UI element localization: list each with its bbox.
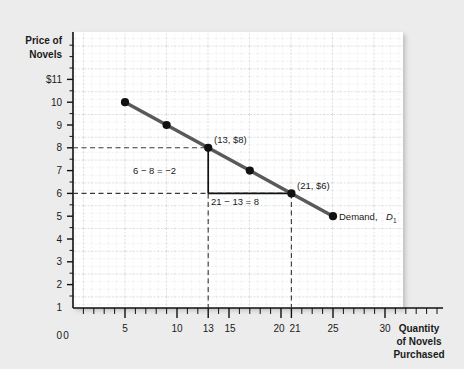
y-axis-title-line2: Novels [29, 49, 62, 60]
y-tick-label-11: $11 [46, 74, 62, 85]
x-tick-label-13: 13 [203, 323, 215, 334]
demand-curve-figure: $11 10 9 8 7 6 5 4 3 2 1 0 Price of Nove… [0, 0, 464, 369]
y-tick-label-10: 10 [51, 97, 63, 108]
data-point-9-9 [163, 121, 171, 129]
annotation-point-13-8: (13, $8) [214, 134, 247, 145]
annotation-run: 21 − 13 = 8 [211, 196, 259, 207]
x-tick-label-21: 21 [289, 323, 301, 334]
y-tick-label-3: 3 [56, 256, 62, 267]
y-tick-label-8: 8 [56, 142, 62, 153]
x-axis-title-line3: Purchased [393, 349, 444, 360]
major-grid [73, 32, 403, 308]
x-axis-title-line1: Quantity [399, 323, 440, 334]
demand-curve-label-symbol: D [386, 211, 393, 222]
annotation-rise: 6 − 8 = −2 [133, 165, 176, 176]
y-tick-label-9: 9 [56, 120, 62, 131]
data-point-21-6 [287, 189, 295, 197]
demand-curve-label-text: Demand, [339, 211, 378, 222]
origin-label: 0 [56, 330, 62, 341]
x-tick-label-0: 0 [63, 330, 69, 341]
x-tick-label-20: 20 [273, 323, 285, 334]
x-tick-label-25: 25 [327, 323, 339, 334]
x-tick-label-30: 30 [379, 323, 391, 334]
y-tick-label-4: 4 [56, 234, 62, 245]
x-tick-label-15: 15 [224, 323, 236, 334]
y-tick-label-6: 6 [56, 188, 62, 199]
demand-curve-label-subscript: 1 [393, 217, 397, 224]
data-point-5-10 [121, 98, 129, 106]
y-axis-title-line1: Price of [25, 35, 62, 46]
data-point-25-5 [329, 212, 337, 220]
annotation-point-21-6: (21, $6) [297, 180, 330, 191]
x-tick-label-10: 10 [171, 323, 183, 334]
y-tick-label-5: 5 [56, 211, 62, 222]
y-tick-label-1: 1 [56, 302, 62, 313]
data-point-17-7 [246, 167, 254, 175]
data-point-13-8 [204, 144, 212, 152]
y-tick-label-7: 7 [56, 165, 62, 176]
y-tick-label-2: 2 [56, 279, 62, 290]
x-axis-title-line2: of Novels [396, 336, 441, 347]
x-tick-label-5: 5 [122, 323, 128, 334]
demand-curve-svg: $11 10 9 8 7 6 5 4 3 2 1 0 Price of Nove… [0, 0, 464, 369]
